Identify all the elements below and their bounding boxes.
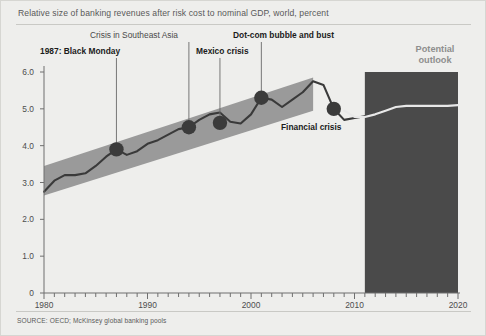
event-marker <box>182 120 196 134</box>
x-tick-label: 2020 <box>436 300 480 310</box>
y-axis-ticks <box>40 72 44 293</box>
potential-outlook-label-line2: outlook <box>404 55 466 66</box>
y-tick-label: 1.0 <box>12 251 34 261</box>
y-tick-label: 2.0 <box>12 214 34 224</box>
event-marker <box>109 142 123 156</box>
annotation-dotcom-bubble: Dot-com bubble and bust <box>233 30 334 40</box>
annotation-financial-crisis: Financial crisis <box>281 122 342 132</box>
event-marker <box>327 102 341 116</box>
source-divider <box>16 311 471 312</box>
x-tick-label: 1990 <box>126 300 170 310</box>
event-marker <box>213 116 227 130</box>
source-note: SOURCE: OECD; McKinsey global banking po… <box>17 317 166 324</box>
chart-figure: Relative size of banking revenues after … <box>0 0 486 336</box>
x-axis-ticks <box>44 293 458 299</box>
y-tick-label: 0 <box>12 288 34 298</box>
y-tick-label: 4.0 <box>12 141 34 151</box>
y-tick-label: 5.0 <box>12 104 34 114</box>
y-tick-label: 3.0 <box>12 178 34 188</box>
trend-band <box>44 78 313 196</box>
potential-outlook-label-line1: Potential <box>404 44 466 55</box>
annotation-southeast-asia-crisis: Crisis in Southeast Asia <box>90 30 178 40</box>
annotation-mexico-crisis: Mexico crisis <box>196 46 249 56</box>
x-tick-label: 2000 <box>229 300 273 310</box>
x-tick-label: 2010 <box>333 300 377 310</box>
y-tick-label: 6.0 <box>12 67 34 77</box>
annotation-black-monday: 1987: Black Monday <box>40 46 120 56</box>
potential-outlook-label: Potential outlook <box>404 44 466 66</box>
x-tick-label: 1980 <box>22 300 66 310</box>
event-marker <box>254 91 268 105</box>
